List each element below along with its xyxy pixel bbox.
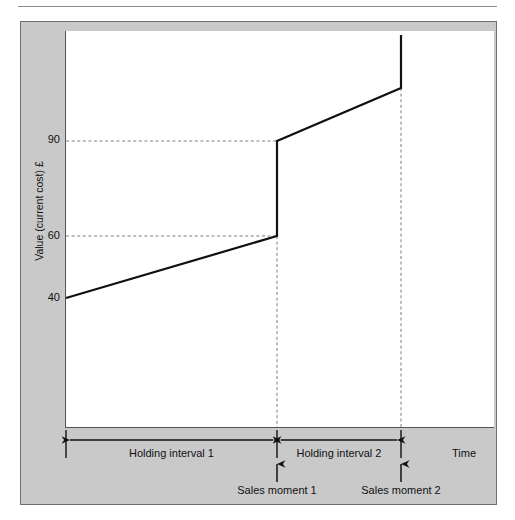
sales-moment-2-label: Sales moment 2: [346, 484, 456, 496]
holding-interval-2-label: Holding interval 2: [257, 447, 421, 459]
y-tick-label-60: 60: [30, 229, 60, 241]
y-axis-title: Value (current cost) £: [33, 126, 45, 296]
y-tick-label-90: 90: [30, 133, 60, 145]
figure-container: Value (current cost) £ 90 60 40: [0, 0, 515, 520]
sales-moment-1-label: Sales moment 1: [222, 484, 332, 496]
y-tick-label-40: 40: [30, 291, 60, 303]
figure-caption: [22, 509, 492, 520]
holding-interval-1-label: Holding interval 1: [90, 447, 253, 459]
x-axis-title: Time: [452, 447, 476, 459]
plot-area: [65, 31, 494, 428]
header-rule: [18, 6, 497, 7]
